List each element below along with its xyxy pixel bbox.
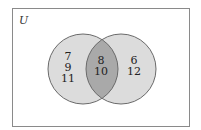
venn-diagram: U 7 9 11 8 10 6 12 xyxy=(0,0,201,130)
left-element: 11 xyxy=(61,72,75,85)
universe-label: U xyxy=(19,14,29,27)
right-element: 12 xyxy=(127,65,141,78)
intersection-element: 10 xyxy=(94,65,108,78)
